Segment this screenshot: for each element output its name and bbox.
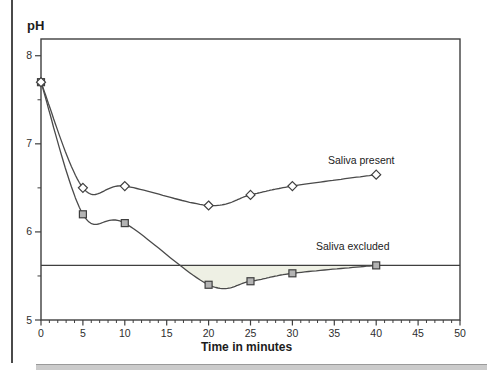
scan-artifact-strip: [36, 364, 487, 370]
y-tick-label: 8: [26, 49, 32, 61]
markers-saliva-present: [37, 78, 381, 210]
diamond-marker: [204, 201, 213, 210]
diamond-marker: [246, 190, 255, 199]
x-tick-label: 30: [287, 327, 299, 339]
x-axis-title: Time in minutes: [201, 340, 292, 354]
x-tick-label: 0: [38, 327, 44, 339]
y-tick-label: 5: [26, 314, 32, 326]
square-marker: [289, 270, 296, 277]
diamond-marker: [372, 170, 381, 179]
x-tick-label: 25: [245, 327, 257, 339]
markers-saliva-excluded: [38, 79, 380, 289]
x-tick-label: 20: [203, 327, 215, 339]
series-label-saliva-present: Saliva present: [328, 154, 395, 166]
curve-saliva-present: [41, 82, 376, 205]
square-marker: [247, 278, 254, 285]
x-axis-ticks: 05101520253035404550: [38, 320, 466, 339]
y-tick-label: 7: [26, 137, 32, 149]
y-axis-title: pH: [27, 18, 44, 33]
square-marker: [373, 262, 380, 269]
x-tick-label: 40: [370, 327, 382, 339]
page-border-line: [11, 0, 13, 363]
y-axis-ticks: 5678: [26, 49, 41, 325]
square-marker: [121, 220, 128, 227]
x-tick-label: 45: [412, 327, 424, 339]
square-marker: [79, 211, 86, 218]
diamond-marker: [288, 182, 297, 191]
series-label-saliva-excluded: Saliva excluded: [316, 240, 390, 252]
chart-plot-area: 051015202530354045505678: [0, 0, 487, 370]
curve-saliva-excluded: [41, 82, 376, 288]
x-tick-label: 15: [161, 327, 173, 339]
y-tick-label: 6: [26, 225, 32, 237]
square-marker: [205, 281, 212, 288]
x-tick-label: 50: [454, 327, 466, 339]
x-tick-label: 35: [328, 327, 340, 339]
x-tick-label: 10: [119, 327, 131, 339]
stephan-curve-figure: pH 051015202530354045505678 Time in minu…: [0, 0, 487, 370]
x-tick-label: 5: [80, 327, 86, 339]
diamond-marker: [120, 182, 129, 191]
